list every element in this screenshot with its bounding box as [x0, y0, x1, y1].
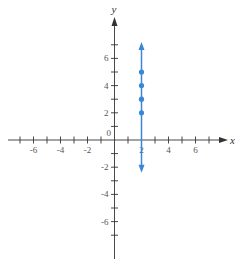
y-tick-label: -4: [101, 189, 109, 199]
series-arrow-down: [139, 165, 145, 173]
y-tick-label: 2: [104, 108, 109, 118]
y-tick-label: -6: [101, 217, 109, 227]
y-tick-label: -2: [101, 162, 109, 172]
data-point: [139, 83, 144, 88]
x-tick-label: 6: [193, 145, 198, 155]
series-arrow-up: [139, 42, 145, 50]
x-tick-label: -4: [57, 145, 65, 155]
x-axis-arrow: [219, 137, 228, 143]
axes: [8, 17, 228, 259]
data-point: [139, 97, 144, 102]
y-axis-title: y: [111, 3, 117, 15]
x-tick-label: -6: [30, 145, 38, 155]
x-tick-label: -2: [84, 145, 92, 155]
x-tick-label: 4: [166, 145, 171, 155]
y-tick-label: 6: [104, 53, 109, 63]
origin-label: 0: [107, 128, 112, 138]
chart: -6-4-2246642-2-4-6 x y 0: [0, 0, 240, 267]
data-point: [139, 69, 144, 74]
x-axis-title: x: [229, 134, 235, 146]
y-axis-arrow: [112, 17, 118, 26]
y-tick-label: 4: [104, 81, 109, 91]
data-point: [139, 110, 144, 115]
